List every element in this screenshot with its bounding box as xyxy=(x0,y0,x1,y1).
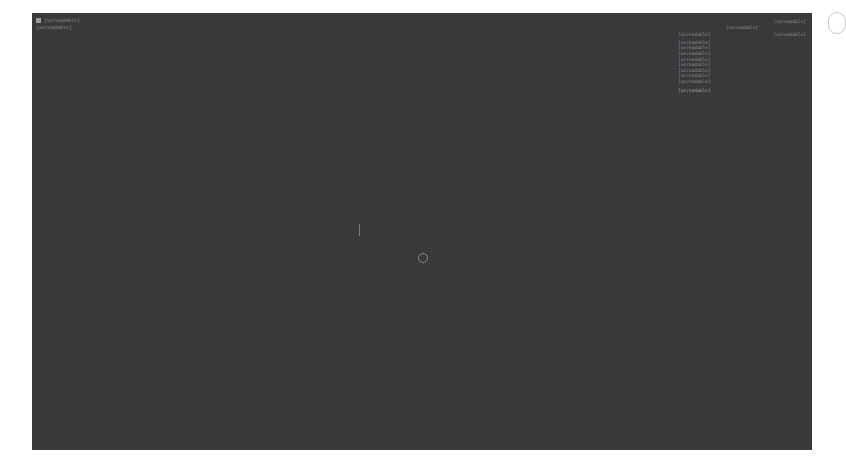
top-left-label: [unreadable] [unreadable] xyxy=(36,17,80,31)
crosshair-ring-icon xyxy=(418,253,428,263)
info-section-label: [unreadable] xyxy=(678,32,711,38)
info-title: [unreadable] xyxy=(678,25,806,31)
vertical-marker xyxy=(359,224,360,236)
info-footer: [unreadable] xyxy=(678,88,806,94)
hud-title: [unreadable] xyxy=(44,17,80,24)
game-viewport[interactable]: [unreadable] [unreadable] [unreadable] [… xyxy=(32,13,812,450)
app-icon xyxy=(36,18,41,23)
hud-subtitle: [unreadable] xyxy=(36,24,80,31)
info-section-row: [unreadable] [unreadable] xyxy=(678,32,806,38)
partial-edge-icon xyxy=(828,12,846,34)
info-line: [unreadable] xyxy=(678,79,806,85)
debug-info-panel: [unreadable] [unreadable] [unreadable] [… xyxy=(678,19,806,93)
info-section-value: [unreadable] xyxy=(773,32,806,38)
